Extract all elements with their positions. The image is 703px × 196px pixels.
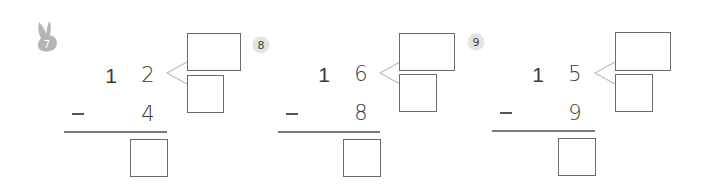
- decompose-connector-icon: [160, 55, 190, 90]
- sum-line: [64, 131, 167, 133]
- problem-number-badge: 8: [253, 37, 270, 54]
- minus-sign: [500, 112, 512, 114]
- rabbit-badge-icon: 7: [33, 18, 63, 54]
- minus-sign: [286, 113, 298, 115]
- sum-line: [492, 130, 595, 132]
- decompose-top-box[interactable]: [187, 33, 241, 71]
- problem-number-badge: 9: [468, 34, 485, 51]
- ones-digit: 6: [354, 64, 367, 85]
- problem-number: 7: [44, 39, 50, 50]
- ones-digit: 2: [141, 65, 154, 86]
- tens-digit: 1: [532, 64, 544, 85]
- tens-digit: 1: [318, 64, 330, 85]
- decompose-top-box[interactable]: [399, 33, 455, 71]
- decompose-bottom-box[interactable]: [399, 74, 437, 112]
- sum-line: [278, 131, 380, 133]
- result-box[interactable]: [343, 139, 381, 177]
- decompose-connector-icon: [588, 55, 618, 90]
- subtrahend-digit: 8: [354, 103, 367, 124]
- tens-digit: 1: [105, 65, 117, 86]
- minus-sign: [72, 113, 84, 115]
- ones-digit: 5: [568, 64, 581, 85]
- decompose-bottom-box[interactable]: [187, 75, 224, 113]
- subtrahend-digit: 9: [568, 103, 581, 124]
- decompose-bottom-box[interactable]: [615, 74, 653, 112]
- result-box[interactable]: [130, 139, 168, 177]
- subtrahend-digit: 4: [141, 104, 154, 125]
- result-box[interactable]: [558, 138, 596, 176]
- decompose-top-box[interactable]: [615, 32, 671, 71]
